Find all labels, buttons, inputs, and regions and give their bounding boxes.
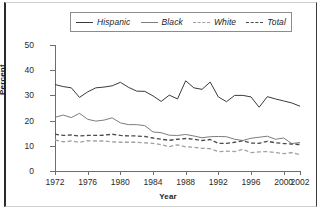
x-tick-mark xyxy=(88,171,89,175)
x-tick-mark xyxy=(284,171,285,175)
x-tick-mark xyxy=(300,171,301,175)
y-tick-label: 0 xyxy=(4,166,34,176)
x-tick-label: 1996 xyxy=(234,177,268,187)
x-tick-mark xyxy=(251,171,252,175)
legend-item-hispanic: Hispanic xyxy=(76,17,130,27)
legend-swatch-total-icon xyxy=(246,22,263,23)
legend-label-black: Black xyxy=(162,17,183,27)
x-tick-label: 1976 xyxy=(71,177,105,187)
legend-item-total: Total xyxy=(246,17,286,27)
x-tick-label: 1984 xyxy=(136,177,170,187)
x-tick-mark xyxy=(186,171,187,175)
chart-legend: Hispanic Black White Total xyxy=(70,12,292,32)
x-tick-mark xyxy=(153,171,154,175)
legend-swatch-black-icon xyxy=(141,22,158,23)
y-tick-label: 50 xyxy=(4,40,34,50)
x-tick-label: 1988 xyxy=(169,177,203,187)
x-tick-mark xyxy=(218,171,219,175)
series-line-white xyxy=(55,140,300,155)
legend-item-black: Black xyxy=(141,17,183,27)
series-line-hispanic xyxy=(55,81,300,107)
legend-label-white: White xyxy=(214,17,236,27)
legend-item-white: White xyxy=(193,17,236,27)
legend-label-hispanic: Hispanic xyxy=(97,17,130,27)
x-axis-line xyxy=(55,171,301,172)
x-tick-mark xyxy=(120,171,121,175)
series-lines xyxy=(55,45,300,171)
x-tick-label: 1980 xyxy=(103,177,137,187)
y-tick-label: 10 xyxy=(4,141,34,151)
legend-swatch-hispanic-icon xyxy=(76,22,93,23)
x-axis-label: Year xyxy=(0,192,336,201)
x-tick-label: 2002 xyxy=(283,177,317,187)
y-tick-label: 40 xyxy=(4,65,34,75)
x-tick-label: 1992 xyxy=(201,177,235,187)
legend-swatch-white-icon xyxy=(193,22,210,23)
legend-label-total: Total xyxy=(267,17,286,27)
x-tick-mark xyxy=(55,171,56,175)
y-tick-label: 20 xyxy=(4,116,34,126)
plot-area xyxy=(55,45,300,171)
y-tick-label: 30 xyxy=(4,90,34,100)
x-tick-label: 1972 xyxy=(38,177,72,187)
